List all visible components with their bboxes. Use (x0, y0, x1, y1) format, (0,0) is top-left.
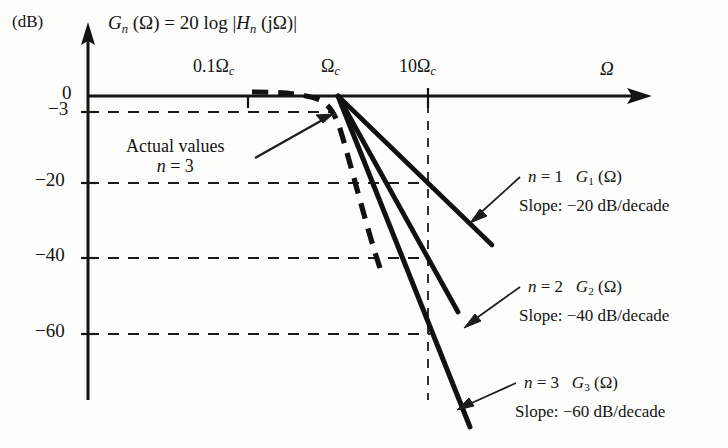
leader-arrow-actual-values (255, 114, 333, 158)
x-tick-label-omega-c: Ωc (321, 56, 340, 79)
title-omega-arg: (Ω) (133, 12, 160, 33)
asymptote-line-n2 (338, 96, 458, 312)
series-n3-g-subscript: 3 (584, 381, 590, 393)
series-label-n3: n = 3 G3 (Ω) (524, 373, 618, 394)
x-tick-omegac-sub: c (334, 64, 339, 78)
series-n2-n-symbol: n (528, 277, 537, 296)
y-tick-label-minus-60: −60 (35, 320, 65, 341)
x-tick-10-omega: Ω (417, 56, 430, 76)
series-n2-g-symbol: G (576, 277, 588, 296)
y-tick-label-minus-20: −20 (35, 169, 65, 190)
series-n3-n-value: = 3 (537, 373, 559, 392)
series-slope-n3: Slope: −60 dB/decade (515, 402, 665, 421)
series-n3-g-arg: (Ω) (594, 373, 618, 392)
leader-arrow-n1 (470, 177, 520, 223)
series-n1-g-arg: (Ω) (598, 167, 622, 186)
x-tick-label-0p1-omega-c: 0.1Ωc (193, 56, 234, 79)
x-tick-omegac-omega: Ω (321, 56, 334, 76)
y-tick-label-minus-3: −3 (48, 98, 68, 119)
leader-arrow-n3 (457, 383, 516, 410)
series-label-n1: n = 1 G1 (Ω) (528, 167, 622, 188)
asymptote-lines-group (338, 96, 492, 427)
title-h-arg: (jΩ) (261, 12, 293, 33)
annotation-n-symbol: n (157, 156, 166, 176)
series-n1-g-subscript: 1 (588, 175, 594, 187)
x-tick-0p1-lead: 0.1 (193, 56, 216, 76)
y-tick-label-minus-40: −40 (35, 244, 65, 265)
series-n1-n-symbol: n (528, 167, 537, 186)
x-tick-label-10-omega-c: 10Ωc (399, 56, 436, 79)
series-n1-g-symbol: G (576, 167, 588, 186)
series-n1-n-value: = 1 (541, 167, 563, 186)
annotation-actual-values: Actual values n = 3 (126, 136, 224, 176)
series-n3-g-symbol: G (572, 373, 584, 392)
x-tick-10-lead: 10 (399, 56, 417, 76)
plot-title-equation: Gn (Ω) = 20 log |Hn (jΩ)| (108, 12, 297, 36)
x-tick-0p1-sub: c (229, 64, 234, 78)
series-n2-g-subscript: 2 (588, 285, 594, 297)
annotation-actual-values-line2: n = 3 (126, 156, 224, 176)
title-g-symbol: G (108, 12, 122, 33)
annotation-n-value: = 3 (170, 156, 194, 176)
leader-arrows-group (255, 114, 520, 410)
y-axis-unit-label: (dB) (12, 12, 43, 31)
series-n3-n-symbol: n (524, 373, 533, 392)
annotation-actual-values-line1: Actual values (126, 136, 224, 156)
plot-canvas (0, 0, 728, 448)
series-slope-n2: Slope: −40 dB/decade (519, 306, 669, 325)
title-equals: = 20 log (164, 12, 228, 33)
leader-arrow-n2 (464, 287, 520, 328)
series-n2-g-arg: (Ω) (598, 277, 622, 296)
x-axis-label: Ω (600, 58, 614, 79)
series-n2-n-value: = 2 (541, 277, 563, 296)
bode-plot-figure: (dB) Gn (Ω) = 20 log |Hn (jΩ)| Ω 0.1Ωc Ω… (0, 0, 728, 448)
asymptote-line-n3 (338, 96, 470, 427)
asymptote-line-n1 (338, 96, 492, 245)
series-slope-n1: Slope: −20 dB/decade (519, 196, 669, 215)
title-bar-close: | (293, 12, 297, 33)
title-h-symbol: H (236, 12, 250, 33)
x-tick-10-sub: c (430, 64, 435, 78)
series-label-n2: n = 2 G2 (Ω) (528, 277, 622, 298)
x-tick-0p1-omega: Ω (216, 56, 229, 76)
